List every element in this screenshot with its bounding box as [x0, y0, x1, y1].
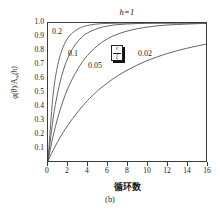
x-axis-tick-mark [87, 162, 88, 166]
x-axis-tick-mark [207, 162, 208, 166]
y-axis-tick-label: 0.1 [22, 144, 44, 152]
x-axis-tick-label: 16 [199, 167, 215, 175]
y-axis-tick-labels: 0.10.20.30.40.50.60.70.80.91.0 [20, 0, 44, 212]
x-axis-label: 循环数 [47, 180, 207, 193]
curves-svg [48, 23, 206, 161]
x-axis-tick-label: 2 [59, 167, 75, 175]
y-axis-tick-label: 0.6 [22, 74, 44, 82]
y-axis-tick-label: 0.2 [22, 130, 44, 138]
legend-numerator: ε [116, 46, 118, 52]
y-axis-tick-label: 0.3 [22, 116, 44, 124]
series-label-0.2: 0.2 [52, 28, 62, 36]
x-axis-tick-mark [127, 162, 128, 166]
x-axis-tick-label: 4 [79, 167, 95, 175]
y-axis-label-subscript: ∞ [13, 75, 19, 79]
legend-denominator: ξ [116, 54, 118, 60]
y-axis-tick-label: 0.5 [22, 88, 44, 96]
legend-boxed-symbol: ε ξ [111, 45, 125, 63]
x-axis-tick-label: 6 [99, 167, 115, 175]
y-axis-tick-label: 0.8 [22, 46, 44, 54]
y-axis-label-mid: )/A [10, 79, 19, 89]
y-axis-tick-label: 0.9 [22, 32, 44, 40]
y-axis-label-theta: θ [10, 89, 19, 93]
series-label-0.1: 0.1 [68, 50, 78, 58]
curve-0.02 [48, 44, 206, 161]
y-axis-label: φ(θ)/A∞(h) [10, 33, 19, 133]
figure-container: h=1 φ(θ)/A∞(h) 0.10.20.30.40.50.60.70.80… [0, 0, 220, 212]
chart-title: h=1 [47, 7, 207, 17]
series-label-0.02: 0.02 [138, 50, 152, 58]
figure-caption: (b) [0, 195, 220, 204]
y-axis-label-phi: φ( [10, 92, 19, 99]
series-label-0.05: 0.05 [88, 62, 102, 70]
x-axis-tick-mark [187, 162, 188, 166]
x-axis-tick-label: 14 [179, 167, 195, 175]
x-axis-tick-mark [67, 162, 68, 166]
y-axis-tick-label: 0.4 [22, 102, 44, 110]
x-axis-tick-mark [107, 162, 108, 166]
x-axis-tick-label: 12 [159, 167, 175, 175]
curve-0.05 [48, 23, 206, 161]
x-axis-tick-label: 10 [139, 167, 155, 175]
plot-area [47, 22, 207, 162]
x-axis-tick-mark [147, 162, 148, 166]
legend-box-face: ε ξ [111, 45, 123, 61]
x-axis-tick-label: 8 [119, 167, 135, 175]
x-axis-tick-mark [167, 162, 168, 166]
curve-0.2 [48, 23, 206, 161]
y-axis-tick-label: 0.7 [22, 60, 44, 68]
y-axis-tick-label: 1.0 [22, 18, 44, 26]
curve-0.1 [48, 23, 206, 161]
x-axis-tick-mark [47, 162, 48, 166]
x-axis-tick-label: 0 [39, 167, 55, 175]
